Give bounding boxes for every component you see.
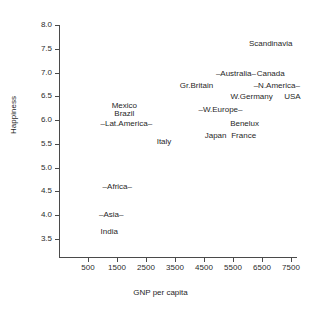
y-tick-label: 3.5	[41, 235, 52, 243]
y-tick-label-wrap: 7.0	[0, 69, 52, 77]
data-point-label: –N.America–	[254, 82, 300, 90]
x-tick-mark	[117, 258, 118, 262]
happiness-vs-gnp-scatter-chart: 3.54.04.55.05.56.06.57.07.58.0 500150025…	[0, 0, 321, 318]
x-tick-label: 5500	[224, 264, 242, 272]
y-tick-mark	[55, 168, 59, 169]
y-tick-label-wrap: 7.5	[0, 45, 52, 53]
data-point-label: –Africa–	[103, 183, 132, 191]
y-tick-label: 7.0	[41, 69, 52, 77]
x-tick-mark	[88, 258, 89, 262]
x-axis-title: GNP per capita	[0, 288, 321, 297]
x-tick-label: 3500	[166, 264, 184, 272]
y-tick-label-wrap: 6.5	[0, 92, 52, 100]
x-tick-mark	[291, 258, 292, 262]
data-point-label: USA	[284, 93, 300, 101]
plot-area	[59, 25, 296, 257]
y-tick-label-wrap: 3.5	[0, 235, 52, 243]
y-tick-mark	[55, 215, 59, 216]
data-point-label: Italy	[157, 138, 172, 146]
data-point-label: Scandinavia	[249, 40, 293, 48]
y-tick-mark	[55, 96, 59, 97]
data-point-label: Canada	[257, 70, 285, 78]
x-tick-label: 4500	[195, 264, 213, 272]
y-tick-label: 4.5	[41, 187, 52, 195]
data-point-label: –W.Europe–	[198, 106, 242, 114]
y-tick-mark	[55, 191, 59, 192]
y-tick-label: 5.0	[41, 164, 52, 172]
x-tick-mark	[233, 258, 234, 262]
y-tick-label: 4.0	[41, 211, 52, 219]
y-tick-mark	[55, 144, 59, 145]
y-axis-title: Happiness	[9, 96, 18, 134]
data-point-label: India	[101, 228, 118, 236]
y-tick-mark	[55, 25, 59, 26]
x-tick-mark	[175, 258, 176, 262]
data-point-label: Japan	[205, 132, 227, 140]
y-tick-mark	[55, 73, 59, 74]
x-tick-mark	[204, 258, 205, 262]
y-tick-mark	[55, 120, 59, 121]
data-point-label: Brazil	[114, 110, 134, 118]
y-tick-label: 6.0	[41, 116, 52, 124]
x-tick-label: 7500	[282, 264, 300, 272]
y-tick-mark	[55, 49, 59, 50]
y-tick-label-wrap: 4.5	[0, 187, 52, 195]
x-tick-label: 2500	[137, 264, 155, 272]
data-point-label: Benelux	[230, 120, 259, 128]
y-axis-line	[59, 25, 60, 258]
x-tick-label: 1500	[108, 264, 126, 272]
y-tick-label: 8.0	[41, 21, 52, 29]
data-point-label: –Australia–	[216, 70, 256, 78]
data-point-label: W.Germany	[230, 93, 272, 101]
y-tick-label-wrap: 6.0	[0, 116, 52, 124]
y-tick-label-wrap: 5.5	[0, 140, 52, 148]
x-tick-mark	[262, 258, 263, 262]
y-tick-label: 6.5	[41, 92, 52, 100]
data-point-label: France	[231, 132, 256, 140]
y-tick-label-wrap: 8.0	[0, 21, 52, 29]
y-tick-label-wrap: 4.0	[0, 211, 52, 219]
x-tick-mark	[146, 258, 147, 262]
data-point-label: Gr.Britain	[180, 82, 213, 90]
x-tick-label: 6500	[253, 264, 271, 272]
y-tick-mark	[55, 239, 59, 240]
x-tick-label: 500	[81, 264, 94, 272]
data-point-label: –Asia–	[99, 211, 123, 219]
y-tick-label-wrap: 5.0	[0, 164, 52, 172]
data-point-label: –Lat.America–	[101, 120, 153, 128]
y-tick-label: 7.5	[41, 45, 52, 53]
y-tick-label: 5.5	[41, 140, 52, 148]
